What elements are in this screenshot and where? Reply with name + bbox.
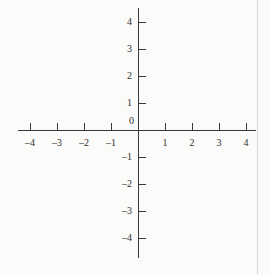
y-tick bbox=[139, 157, 146, 158]
coordinate-plane-figure: –4–3–2–11234 4321–1–2–3–4 0 bbox=[0, 0, 269, 275]
y-tick bbox=[139, 211, 146, 212]
x-tick bbox=[246, 123, 247, 130]
x-tick bbox=[57, 123, 58, 130]
page-edge-artifact bbox=[257, 0, 258, 275]
x-tick bbox=[192, 123, 193, 130]
y-tick-label: –3 bbox=[112, 206, 132, 216]
x-tick bbox=[30, 123, 31, 130]
x-tick-label: 2 bbox=[182, 138, 202, 148]
y-tick bbox=[139, 103, 146, 104]
y-tick-label: 3 bbox=[112, 44, 132, 54]
origin-label: 0 bbox=[120, 116, 134, 126]
y-tick bbox=[139, 184, 146, 185]
y-axis-line bbox=[138, 8, 139, 258]
y-tick bbox=[139, 49, 146, 50]
x-tick-label: 1 bbox=[155, 138, 175, 148]
y-tick bbox=[139, 76, 146, 77]
x-axis-line bbox=[18, 130, 256, 131]
x-tick bbox=[165, 123, 166, 130]
x-tick-label: –3 bbox=[47, 138, 67, 148]
x-tick bbox=[111, 123, 112, 130]
x-tick bbox=[219, 123, 220, 130]
x-tick-label: –2 bbox=[74, 138, 94, 148]
x-tick bbox=[84, 123, 85, 130]
y-tick-label: –4 bbox=[112, 233, 132, 243]
x-tick-label: 3 bbox=[209, 138, 229, 148]
y-tick-label: 1 bbox=[112, 98, 132, 108]
y-tick-label: –1 bbox=[112, 152, 132, 162]
x-tick-label: –1 bbox=[101, 138, 121, 148]
x-tick-label: 4 bbox=[236, 138, 256, 148]
x-tick-label: –4 bbox=[20, 138, 40, 148]
y-tick bbox=[139, 22, 146, 23]
y-tick-label: 4 bbox=[112, 17, 132, 27]
y-tick-label: 2 bbox=[112, 71, 132, 81]
y-tick-label: –2 bbox=[112, 179, 132, 189]
y-tick bbox=[139, 238, 146, 239]
